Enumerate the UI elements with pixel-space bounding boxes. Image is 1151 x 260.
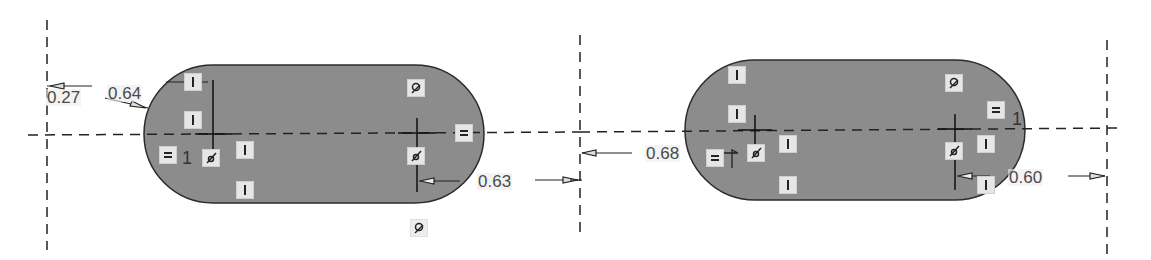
dimension-label[interactable]: 0.63 [477, 173, 512, 190]
equal-index-label: 1 [182, 149, 192, 167]
dimension-label[interactable]: 0.27 [46, 89, 81, 106]
parallel-icon[interactable] [236, 141, 254, 159]
parallel-icon[interactable] [184, 111, 202, 129]
coincident-icon[interactable] [945, 74, 963, 92]
coincident-icon[interactable] [410, 219, 428, 237]
parallel-icon[interactable] [779, 176, 797, 194]
parallel-icon[interactable] [728, 66, 746, 84]
parallel-icon[interactable] [184, 73, 202, 91]
equal-icon[interactable] [159, 146, 177, 164]
parallel-icon[interactable] [977, 176, 995, 194]
coincident-icon[interactable] [407, 79, 425, 97]
equal-icon[interactable] [987, 101, 1005, 119]
dimension-label[interactable]: 0.60 [1008, 169, 1043, 186]
parallel-icon[interactable] [779, 135, 797, 153]
equal-icon[interactable] [706, 149, 724, 167]
dimension-label[interactable]: 0.64 [107, 85, 142, 102]
tangent-icon[interactable] [945, 142, 963, 160]
tangent-icon[interactable] [747, 144, 765, 162]
sketch-canvas[interactable] [0, 0, 1151, 260]
equal-icon[interactable] [455, 124, 473, 142]
equal-index-label: 1 [1012, 110, 1022, 128]
dimension-label[interactable]: 0.68 [645, 145, 680, 162]
tangent-icon[interactable] [202, 149, 220, 167]
parallel-icon[interactable] [236, 181, 254, 199]
parallel-icon[interactable] [728, 105, 746, 123]
parallel-icon[interactable] [977, 135, 995, 153]
tangent-icon[interactable] [407, 147, 425, 165]
